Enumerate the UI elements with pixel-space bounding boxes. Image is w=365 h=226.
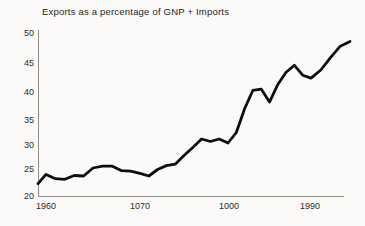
- exports-line: [38, 41, 350, 183]
- plot-area: [0, 0, 365, 226]
- exports-chart: Exports as a percentage of GNP + Imports…: [0, 0, 365, 226]
